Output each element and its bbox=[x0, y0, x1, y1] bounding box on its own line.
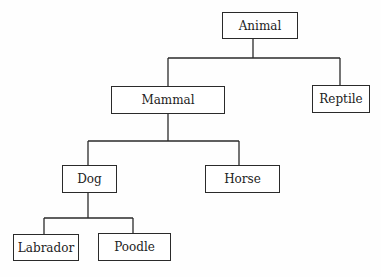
node-labrador: Labrador bbox=[13, 234, 79, 261]
node-label: Reptile bbox=[319, 92, 362, 106]
node-reptile: Reptile bbox=[312, 85, 370, 113]
node-label: Animal bbox=[239, 19, 282, 33]
node-label: Dog bbox=[77, 172, 102, 186]
node-mammal: Mammal bbox=[111, 86, 225, 114]
node-label: Mammal bbox=[141, 93, 194, 107]
node-dog: Dog bbox=[62, 165, 117, 193]
node-horse: Horse bbox=[205, 165, 280, 193]
node-animal: Animal bbox=[222, 12, 298, 39]
node-label: Horse bbox=[224, 172, 261, 186]
node-label: Labrador bbox=[18, 241, 74, 255]
node-poodle: Poodle bbox=[98, 233, 171, 261]
node-label: Poodle bbox=[114, 240, 155, 254]
tree-diagram: Animal Mammal Reptile Dog Horse Labrador… bbox=[0, 0, 381, 277]
